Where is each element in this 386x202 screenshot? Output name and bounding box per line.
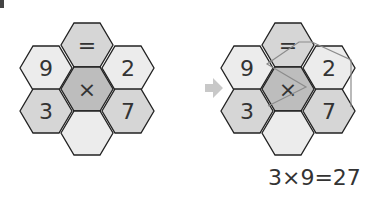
hex-symbol: 7: [121, 99, 135, 124]
hex-symbol: 9: [240, 56, 254, 81]
hex-cell-top: =: [61, 23, 113, 67]
hex-cell-top: =: [262, 23, 314, 67]
right-arrow-icon: [205, 78, 223, 98]
hex-symbol: 3: [39, 99, 53, 124]
equation-text: 3×9=27: [268, 165, 361, 190]
hex-symbol: ×: [78, 77, 96, 102]
hex-symbol: 2: [121, 56, 135, 81]
hex-symbol: 7: [322, 99, 336, 124]
hex-symbol: 9: [39, 56, 53, 81]
hex-symbol: 3: [240, 99, 254, 124]
hex-symbol: 2: [322, 56, 336, 81]
hex-symbol: =: [78, 33, 96, 58]
left-puzzle: = 9 2 × 3 7: [20, 23, 154, 155]
right-puzzle: = 9 2 × 3 7: [221, 23, 355, 155]
